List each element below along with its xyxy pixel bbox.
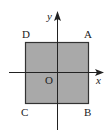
vertex-label-a: A xyxy=(84,28,92,40)
vertex-label-b: B xyxy=(84,106,91,118)
coordinate-diagram: y x O D A C B xyxy=(0,0,112,132)
x-axis-label: x xyxy=(95,74,101,86)
y-axis-label: y xyxy=(46,10,52,22)
vertex-label-d: D xyxy=(22,28,30,40)
origin-label: O xyxy=(45,74,53,86)
vertex-label-c: C xyxy=(21,106,28,118)
